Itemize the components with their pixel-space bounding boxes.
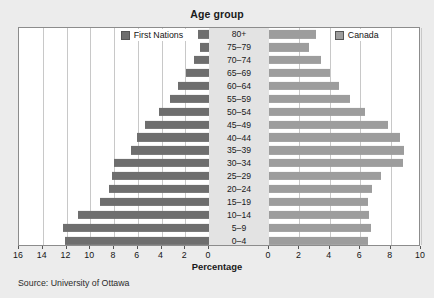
- bar-first-nations: [198, 30, 209, 38]
- axis-tick-label: 16: [6, 250, 30, 260]
- age-label-band: [209, 28, 269, 245]
- axis-tick-label: 10: [408, 250, 432, 260]
- bar-first-nations: [114, 159, 209, 167]
- bar-canada: [269, 146, 404, 154]
- x-axis-title: Percentage: [0, 261, 434, 272]
- source-note: Source: University of Ottawa: [18, 278, 129, 288]
- bar-canada: [269, 224, 371, 232]
- bar-canada: [269, 211, 369, 219]
- tick-mark: [184, 246, 185, 249]
- legend-label-canada: Canada: [348, 30, 379, 40]
- bar-first-nations: [109, 185, 209, 193]
- bar-first-nations: [178, 82, 209, 90]
- bar-first-nations: [78, 211, 209, 219]
- axis-tick-label: 6: [125, 250, 149, 260]
- bar-first-nations: [112, 172, 209, 180]
- tick-mark: [329, 246, 330, 249]
- bar-first-nations: [170, 95, 209, 103]
- tick-mark: [137, 246, 138, 249]
- axis-tick-label: 6: [347, 250, 371, 260]
- axis-tick-label: 8: [378, 250, 402, 260]
- axis-tick-label: 0: [196, 250, 220, 260]
- bar-canada: [269, 95, 350, 103]
- tick-mark: [42, 246, 43, 249]
- tick-mark: [298, 246, 299, 249]
- bar-first-nations: [145, 121, 209, 129]
- tick-mark: [89, 246, 90, 249]
- bar-canada: [269, 133, 400, 141]
- bar-first-nations: [131, 146, 209, 154]
- axis-tick-label: 4: [149, 250, 173, 260]
- population-pyramid-chart: Age group First Nations Canada 80+75–797…: [0, 0, 434, 298]
- plot-area: First Nations Canada 80+75–7970–7465–696…: [18, 27, 420, 246]
- axis-tick-label: 2: [172, 250, 196, 260]
- legend-label-first-nations: First Nations: [134, 30, 183, 40]
- grid-line: [421, 28, 422, 245]
- bar-first-nations: [194, 56, 209, 64]
- tick-mark: [390, 246, 391, 249]
- chart-title: Age group: [0, 8, 434, 20]
- axis-tick-label: 8: [101, 250, 125, 260]
- tick-mark: [66, 246, 67, 249]
- bar-canada: [269, 198, 368, 206]
- tick-mark: [208, 246, 209, 249]
- axis-tick-label: 10: [77, 250, 101, 260]
- axis-tick-label: 2: [286, 250, 310, 260]
- tick-mark: [359, 246, 360, 249]
- tick-mark: [420, 246, 421, 249]
- bar-first-nations: [100, 198, 209, 206]
- bar-canada: [269, 30, 316, 38]
- tick-mark: [18, 246, 19, 249]
- bar-canada: [269, 82, 339, 90]
- bar-first-nations: [200, 43, 210, 51]
- tick-mark: [113, 246, 114, 249]
- bar-canada: [269, 172, 381, 180]
- legend-first-nations: First Nations: [119, 29, 186, 41]
- bar-canada: [269, 185, 372, 193]
- bar-canada: [269, 159, 403, 167]
- bar-first-nations: [65, 236, 209, 244]
- bar-first-nations: [186, 69, 209, 77]
- axis-tick-label: 12: [54, 250, 78, 260]
- bar-canada: [269, 108, 365, 116]
- bar-canada: [269, 236, 368, 244]
- tick-mark: [161, 246, 162, 249]
- legend-swatch-canada: [335, 31, 344, 40]
- bar-first-nations: [137, 133, 209, 141]
- legend-canada: Canada: [333, 29, 382, 41]
- bar-canada: [269, 121, 388, 129]
- axis-tick-label: 0: [256, 250, 280, 260]
- axis-tick-label: 4: [317, 250, 341, 260]
- bar-canada: [269, 43, 309, 51]
- bar-first-nations: [63, 224, 209, 232]
- axis-tick-label: 14: [30, 250, 54, 260]
- bar-first-nations: [159, 108, 209, 116]
- bar-canada: [269, 69, 330, 77]
- legend-swatch-first-nations: [121, 31, 130, 40]
- tick-mark: [268, 246, 269, 249]
- bar-canada: [269, 56, 321, 64]
